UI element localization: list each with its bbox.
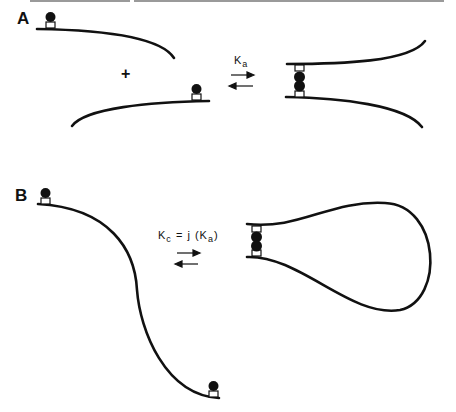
dna-strand-a4 <box>286 97 422 127</box>
equilibrium-constant-b: Kc = j (Ka) <box>158 229 219 244</box>
protein <box>41 188 51 198</box>
dna-loop-b <box>247 203 430 311</box>
protein <box>251 241 262 252</box>
equilibrium-constant-a: Ka <box>234 54 248 69</box>
protein <box>294 81 305 92</box>
binding-site <box>295 65 304 71</box>
equilibrium-arrows-a <box>229 72 254 89</box>
kc-subscript: c <box>166 234 172 244</box>
equals-sign: = <box>176 229 183 241</box>
binding-site <box>41 198 50 204</box>
binding-site <box>192 94 201 100</box>
binding-site <box>46 22 55 28</box>
binding-site <box>209 391 218 397</box>
binding-site <box>295 91 304 97</box>
diagram-canvas <box>0 0 456 412</box>
binding-site <box>252 226 261 232</box>
ka-subscript: a <box>208 234 214 244</box>
protein <box>46 12 56 22</box>
protein <box>209 381 219 391</box>
dna-strand-a3 <box>287 41 425 64</box>
dna-strand-a1 <box>37 29 174 58</box>
panel-label-b: B <box>15 186 27 206</box>
equilibrium-arrows-b <box>175 250 200 267</box>
dna-strand-a2 <box>72 101 209 126</box>
protein <box>192 84 202 94</box>
plus-sign: + <box>121 65 130 83</box>
j-factor: j <box>187 229 190 241</box>
panel-label-a: A <box>17 9 29 29</box>
k-subscript: a <box>242 59 248 69</box>
ka-symbol: K <box>200 229 208 241</box>
